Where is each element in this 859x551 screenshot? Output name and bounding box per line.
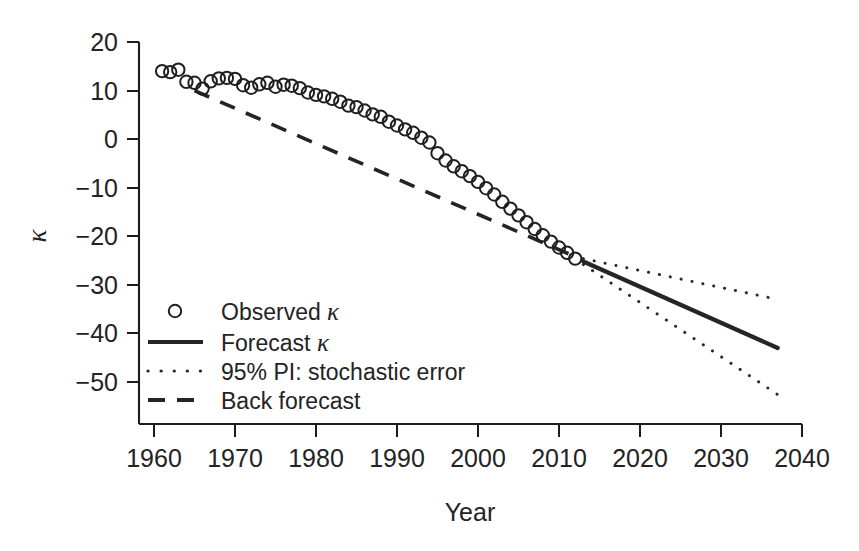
prediction-interval-upper-line (583, 259, 777, 300)
observed-data-point (488, 188, 500, 200)
x-tick-label-1980: 1980 (288, 444, 344, 472)
y-tick-label-neg30: −30 (76, 271, 118, 299)
observed-data-point (496, 196, 508, 208)
legend-label-forecast-kappa: κ (317, 329, 330, 356)
observed-series (156, 63, 582, 264)
legend-label-observed-text: Observed (221, 299, 327, 325)
observed-data-point (245, 82, 257, 94)
forecast-series (583, 262, 777, 349)
kappa-forecast-chart: 20 10 0 −10 −20 −30 −40 −50 1960 1970 19… (0, 0, 859, 551)
y-tick-label-neg50: −50 (76, 368, 118, 396)
x-tick-label-2000: 2000 (450, 444, 506, 472)
legend-item-prediction-interval[interactable]: 95% PI: stochastic error (148, 359, 465, 385)
legend-label-observed: Observed κ (221, 298, 340, 325)
legend-item-observed[interactable]: Observed κ (169, 298, 340, 325)
legend-label-forecast-text: Forecast (221, 330, 317, 356)
legend: Observed κ Forecast κ 95% PI: stochastic… (148, 298, 465, 414)
legend-label-prediction-interval: 95% PI: stochastic error (221, 359, 465, 385)
y-tick-label-neg20: −20 (76, 222, 118, 250)
observed-data-point (237, 79, 249, 91)
observed-data-point (431, 147, 443, 159)
observed-data-point (350, 101, 362, 113)
x-tick-group: 1960 1970 1980 1990 2000 2010 2020 2030 … (126, 424, 830, 472)
observed-data-point (326, 93, 338, 105)
x-tick-label-2040: 2040 (774, 444, 830, 472)
legend-label-observed-kappa: κ (327, 298, 340, 325)
forecast-line (583, 262, 777, 349)
y-tick-group: 20 10 0 −10 −20 −30 −40 −50 (76, 28, 139, 396)
observed-data-point (480, 182, 492, 194)
y-tick-label-20: 20 (90, 28, 118, 56)
prediction-interval-series (583, 259, 777, 395)
observed-data-point (229, 73, 241, 85)
x-tick-label-2010: 2010 (531, 444, 587, 472)
x-axis-title: Year (445, 498, 496, 526)
x-tick-label-1960: 1960 (126, 444, 182, 472)
y-axis-title: κ (22, 228, 52, 242)
observed-data-point (529, 223, 541, 235)
prediction-interval-lower-line (583, 265, 777, 395)
observed-data-point (205, 75, 217, 87)
y-tick-label-0: 0 (104, 125, 118, 153)
observed-data-point (164, 66, 176, 78)
y-tick-label-neg40: −40 (76, 319, 118, 347)
observed-data-point (172, 63, 184, 75)
observed-data-point (512, 209, 524, 221)
back-forecast-line (195, 91, 576, 257)
x-tick-label-1970: 1970 (207, 444, 263, 472)
x-tick-label-2030: 2030 (693, 444, 749, 472)
y-tick-label-neg10: −10 (76, 174, 118, 202)
observed-data-point (286, 80, 298, 92)
y-tick-label-10: 10 (90, 77, 118, 105)
back-forecast-series (195, 91, 576, 257)
legend-label-back-forecast: Back forecast (221, 388, 361, 414)
legend-label-forecast: Forecast κ (221, 329, 330, 356)
observed-data-point (537, 229, 549, 241)
observed-data-point (504, 202, 516, 214)
observed-data-point (520, 216, 532, 228)
x-tick-label-1990: 1990 (369, 444, 425, 472)
legend-open-circle-icon (169, 305, 181, 317)
x-tick-label-2020: 2020 (612, 444, 668, 472)
chart-figure: 20 10 0 −10 −20 −30 −40 −50 1960 1970 19… (0, 0, 859, 551)
observed-data-point (318, 90, 330, 102)
legend-item-forecast[interactable]: Forecast κ (148, 329, 330, 356)
legend-item-back-forecast[interactable]: Back forecast (148, 388, 361, 414)
